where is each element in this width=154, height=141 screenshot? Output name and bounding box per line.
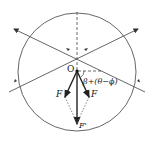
mid-arrow-icon	[84, 48, 88, 51]
force-left-label: F	[55, 89, 63, 99]
force-vector-left	[65, 71, 77, 97]
parallelogram-edge-left	[65, 97, 77, 123]
mid-arrow-icon	[66, 48, 70, 51]
force-diagram: O F F F' β+(θ−ϕ)	[0, 0, 154, 141]
entry-arrow-icon	[137, 79, 140, 83]
entry-arrow-icon	[14, 79, 17, 83]
angle-label: β+(θ−ϕ)	[82, 77, 118, 86]
parallelogram-edge-right	[77, 97, 89, 123]
force-right-label: F	[90, 89, 98, 99]
resultant-label: F'	[78, 121, 87, 130]
origin-label: O	[67, 64, 74, 74]
